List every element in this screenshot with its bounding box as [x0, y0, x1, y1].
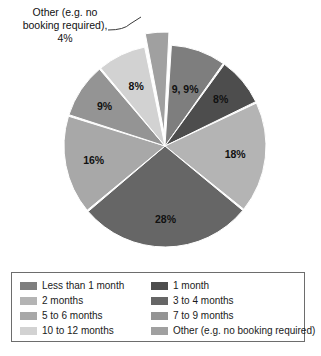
pie-slice-value-label: 18% — [225, 148, 247, 160]
legend-entry[interactable]: 2 months — [20, 293, 151, 308]
legend-entry[interactable]: 7 to 9 months — [151, 308, 306, 323]
legend-swatch — [151, 327, 168, 335]
legend-entry[interactable]: Other (e.g. no booking required) — [151, 323, 306, 338]
legend-swatch — [20, 327, 37, 335]
legend-swatch — [20, 297, 37, 305]
legend-entry[interactable]: Less than 1 month — [20, 278, 151, 293]
callout-line-2: booking required), — [6, 19, 124, 32]
legend-swatch — [151, 297, 168, 305]
legend-label: 3 to 4 months — [173, 295, 234, 306]
pie-slice-value-label: 8% — [129, 80, 145, 92]
pie-slice-value-label: 8% — [213, 93, 229, 105]
legend-swatch — [20, 282, 37, 290]
legend-box: Less than 1 month1 month2 months3 to 4 m… — [11, 272, 305, 342]
legend-label: 2 months — [42, 295, 83, 306]
legend-label: Other (e.g. no booking required) — [173, 325, 315, 336]
legend-label: Less than 1 month — [42, 280, 124, 291]
legend-label: 1 month — [173, 280, 209, 291]
legend-label: 5 to 6 months — [42, 310, 103, 321]
callout-line-1: Other (e.g. no — [6, 6, 124, 19]
legend-entry[interactable]: 5 to 6 months — [20, 308, 151, 323]
pie-slice-value-label: 9% — [97, 100, 113, 112]
legend-grid: Less than 1 month1 month2 months3 to 4 m… — [20, 278, 304, 338]
legend-entry[interactable]: 1 month — [151, 278, 306, 293]
legend-entry[interactable]: 10 to 12 months — [20, 323, 151, 338]
pie-slice-value-label: 16% — [83, 154, 105, 166]
legend-swatch — [151, 282, 168, 290]
legend-label: 10 to 12 months — [42, 325, 114, 336]
legend-label: 7 to 9 months — [173, 310, 234, 321]
pie-chart-figure: 9, 9%8%18%28%16%9%8% Other (e.g. no book… — [0, 0, 321, 356]
legend-swatch — [151, 312, 168, 320]
other-slice-callout: Other (e.g. no booking required), 4% — [6, 6, 124, 45]
callout-line-3: 4% — [6, 32, 124, 45]
pie-slice-value-label: 9, 9% — [172, 83, 200, 95]
pie-plot-area: 9, 9%8%18%28%16%9%8% Other (e.g. no book… — [0, 0, 321, 266]
pie-slice-value-label: 28% — [155, 213, 177, 225]
legend-entry[interactable]: 3 to 4 months — [151, 293, 306, 308]
legend-swatch — [20, 312, 37, 320]
